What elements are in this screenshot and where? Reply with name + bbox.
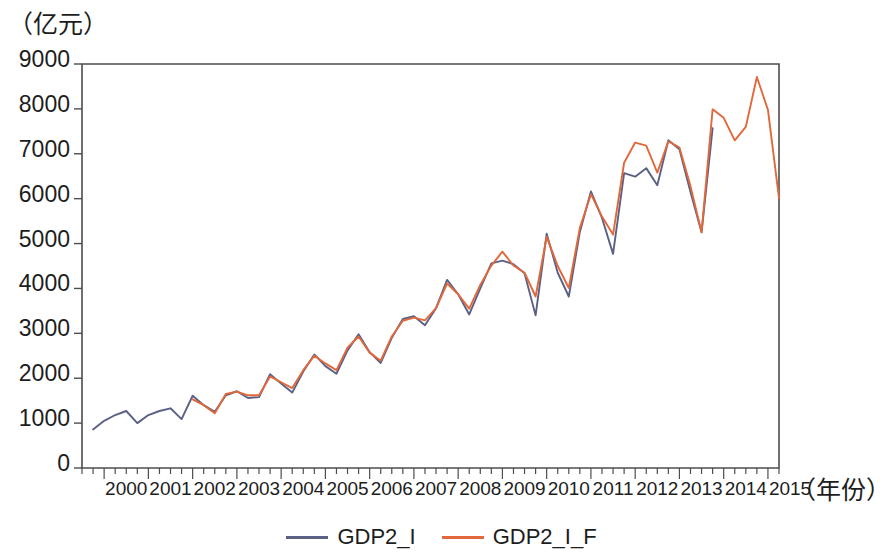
legend-line-swatch <box>442 536 484 539</box>
series-line-gdp2_i <box>93 128 713 429</box>
series-line-gdp2_i_f <box>193 77 779 413</box>
y-tick-label: 9000 <box>0 46 70 73</box>
plot-svg <box>82 62 779 484</box>
plot-area <box>82 62 779 466</box>
y-tick-label: 0 <box>0 450 70 477</box>
y-tick-label: 4000 <box>0 270 70 297</box>
chart-legend: GDP2_IGDP2_I_F <box>0 524 883 550</box>
legend-label: GDP2_I_F <box>493 524 597 550</box>
y-tick-label: 7000 <box>0 136 70 163</box>
y-tick-label: 6000 <box>0 181 70 208</box>
y-axis-unit-label: （亿元） <box>8 4 108 40</box>
y-tick-label: 5000 <box>0 226 70 253</box>
y-tick-label: 2000 <box>0 360 70 387</box>
legend-item[interactable]: GDP2_I <box>286 524 415 550</box>
chart-figure: （亿元） （年份） 010002000300040005000600070008… <box>0 0 883 554</box>
legend-label: GDP2_I <box>337 524 415 550</box>
y-tick-label: 1000 <box>0 405 70 432</box>
legend-line-swatch <box>286 536 328 539</box>
y-tick-label: 3000 <box>0 315 70 342</box>
y-tick-label: 8000 <box>0 91 70 118</box>
legend-item[interactable]: GDP2_I_F <box>442 524 597 550</box>
